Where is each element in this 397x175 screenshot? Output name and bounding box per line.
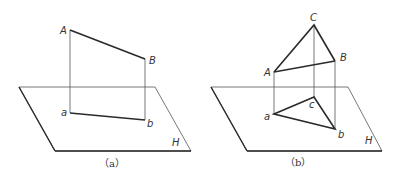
label-A: A: [263, 67, 271, 78]
caption-a: （a）: [99, 158, 125, 169]
label-A: A: [59, 25, 67, 36]
projection-diagram: A B a b H （a） C B A c a b H （b）: [0, 0, 397, 175]
label-B: B: [340, 52, 347, 63]
line-AB: [70, 30, 145, 59]
label-b: b: [147, 118, 153, 129]
label-H: H: [365, 135, 373, 146]
plane-h-left-edge: [19, 87, 55, 151]
label-C: C: [310, 12, 317, 23]
label-H: H: [172, 137, 180, 148]
plane-h-left-edge: [211, 87, 247, 151]
label-c: c: [309, 99, 315, 110]
label-b: b: [338, 129, 344, 140]
figure-a: A B a b H （a）: [19, 25, 191, 169]
label-a: a: [264, 111, 270, 122]
label-B: B: [149, 55, 156, 66]
triangle-ABC: [274, 25, 335, 72]
triangle-abc: [274, 97, 335, 129]
line-AB: [274, 61, 335, 72]
plane-h: [19, 87, 191, 151]
label-a: a: [61, 107, 67, 118]
line-ab: [70, 113, 145, 120]
figure-b: C B A c a b H （b）: [211, 12, 382, 168]
caption-b: （b）: [285, 157, 311, 168]
